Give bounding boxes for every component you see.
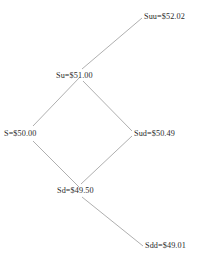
tree-edge-sd-sdd: [82, 197, 143, 246]
tree-edge-su-suu: [82, 18, 142, 69]
tree-edge-s-sd: [33, 141, 79, 187]
node-label-sdd: Sdd=$49.01: [145, 241, 186, 250]
node-label-sud: Sud=$50.49: [134, 129, 175, 138]
tree-edge-s-su: [33, 77, 80, 126]
edge-group: [33, 18, 143, 246]
binomial-tree-diagram: S=$50.00Su=$51.00Sd=$49.50Suu=$52.02Sud=…: [0, 0, 204, 264]
tree-edge-sd-sud: [81, 136, 132, 184]
node-label-s: S=$50.00: [4, 129, 37, 138]
node-label-sd: Sd=$49.50: [57, 186, 94, 195]
node-label-suu: Suu=$52.02: [144, 12, 185, 21]
tree-edge-su-sud: [83, 81, 132, 131]
node-label-su: Su=$51.00: [56, 71, 93, 80]
